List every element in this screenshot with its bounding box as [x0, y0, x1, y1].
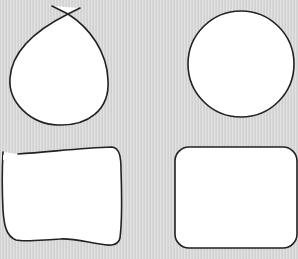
wobbly-rectangle-shape — [2, 147, 121, 245]
rounded-rectangle-shape — [175, 147, 297, 248]
teardrop-loop-shape — [10, 6, 108, 125]
circle-shape — [188, 11, 294, 117]
shape-canvas — [0, 0, 298, 259]
